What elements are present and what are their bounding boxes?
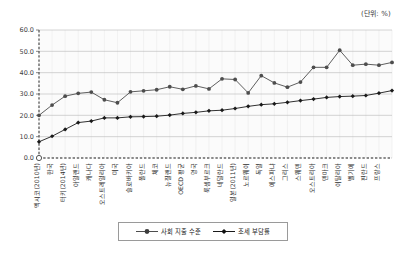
svg-text:핀란드: 핀란드 — [360, 163, 367, 181]
svg-text:20.0: 20.0 — [20, 112, 34, 120]
svg-text:멕시코(2010년): 멕시코(2010년) — [33, 163, 41, 208]
svg-text:룩셈부르크: 룩셈부르크 — [203, 163, 211, 193]
svg-text:덴마크: 덴마크 — [321, 163, 329, 181]
legend-item-tax-burden: 조세 부담률 — [213, 227, 270, 236]
chart-legend: 사회 지출 수준 조세 부담률 — [118, 222, 288, 241]
svg-text:노르웨이: 노르웨이 — [242, 163, 250, 187]
svg-text:캐나다: 캐나다 — [85, 163, 93, 181]
svg-text:오스트레일리아: 오스트레일리아 — [98, 163, 106, 205]
line-circle-marker-icon — [136, 227, 158, 236]
chart-figure: (단위: %) 0.010.020.030.040.050.060.0 멕시코(… — [0, 0, 401, 256]
svg-text:영국: 영국 — [190, 163, 198, 175]
svg-text:그리스: 그리스 — [281, 163, 289, 181]
svg-text:아일랜드: 아일랜드 — [72, 163, 80, 187]
legend-label-tax-burden: 조세 부담률 — [238, 227, 270, 236]
svg-text:OECD 평균: OECD 평균 — [177, 163, 184, 195]
svg-text:독일: 독일 — [255, 163, 263, 175]
svg-text:네덜란드: 네덜란드 — [216, 163, 224, 187]
svg-text:오스트리아: 오스트리아 — [308, 163, 316, 193]
svg-text:프랑스: 프랑스 — [373, 163, 380, 181]
svg-text:슬로바키아: 슬로바키아 — [125, 163, 133, 193]
svg-text:폴란드: 폴란드 — [138, 163, 145, 181]
svg-text:50.0: 50.0 — [20, 48, 34, 56]
legend-label-social-spending: 사회 지출 수준 — [161, 227, 201, 236]
svg-text:한국: 한국 — [46, 163, 54, 175]
svg-text:미국: 미국 — [111, 163, 119, 175]
svg-text:60.0: 60.0 — [20, 26, 34, 34]
svg-text:이탈리아: 이탈리아 — [334, 163, 342, 187]
svg-text:0.0: 0.0 — [24, 154, 34, 162]
svg-text:벨기에: 벨기에 — [347, 163, 355, 181]
line-diamond-marker-icon — [213, 227, 235, 236]
svg-text:일본(2011년): 일본(2011년) — [229, 163, 236, 202]
legend-item-social-spending: 사회 지출 수준 — [136, 227, 201, 236]
x-axis-labels: 멕시코(2010년)한국터키(2014년)아일랜드캐나다오스트레일리아미국슬로바… — [33, 163, 380, 208]
svg-text:30.0: 30.0 — [20, 90, 34, 98]
svg-text:10.0: 10.0 — [20, 133, 34, 141]
svg-text:스웨덴: 스웨덴 — [294, 163, 302, 181]
line-chart-plot: 0.010.020.030.040.050.060.0 멕시코(2010년)한국… — [0, 0, 401, 256]
svg-text:터키(2014년): 터키(2014년) — [59, 163, 67, 202]
svg-text:40.0: 40.0 — [20, 69, 34, 77]
svg-text:에스파냐: 에스파냐 — [268, 163, 276, 187]
svg-text:체코: 체코 — [151, 163, 159, 175]
svg-text:뉴질랜드: 뉴질랜드 — [164, 163, 172, 187]
y-axis-ticks: 0.010.020.030.040.050.060.0 — [20, 26, 39, 162]
